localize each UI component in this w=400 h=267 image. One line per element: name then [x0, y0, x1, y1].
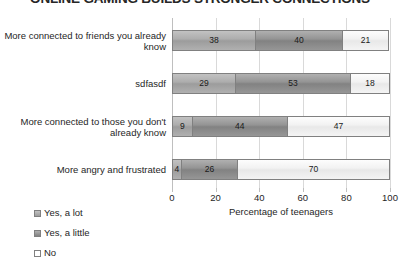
stacked-bar[interactable]: 94447 [172, 116, 390, 137]
chart-legend: Yes, a lotYes, a littleNo [34, 203, 90, 263]
bar-value-label: 4 [174, 165, 179, 174]
bar-segment[interactable]: 70 [237, 159, 390, 180]
legend-swatch-icon [34, 250, 41, 257]
legend-label: Yes, a little [44, 228, 90, 238]
bar-value-label: 47 [334, 122, 343, 131]
legend-swatch-icon [34, 210, 41, 217]
bar-row: 384021 [172, 19, 390, 62]
chart-title: ONLINE GAMING BUILDS STRONGER CONNECTION… [0, 0, 400, 6]
stacked-bar[interactable]: 295318 [172, 73, 390, 94]
x-axis-tick-labels: 020406080100 [172, 192, 390, 206]
legend-item[interactable]: Yes, a little [34, 223, 90, 243]
category-label: sdfasdf [4, 78, 172, 90]
bar-value-label: 44 [235, 122, 244, 131]
bar-row: 94447 [172, 105, 390, 148]
bar-segment[interactable]: 38 [172, 30, 256, 51]
bar-row: 42670 [172, 148, 390, 191]
bar-value-label: 26 [205, 165, 214, 174]
bar-value-label: 29 [199, 79, 208, 88]
x-tick-label: 100 [382, 192, 398, 203]
x-tick-label: 0 [169, 192, 174, 203]
x-tick-label: 20 [210, 192, 221, 203]
bar-row: 295318 [172, 62, 390, 105]
stacked-bar[interactable]: 42670 [172, 159, 390, 180]
legend-item[interactable]: Yes, a lot [34, 203, 90, 223]
category-label: More connected to friends you already kn… [4, 29, 172, 52]
bar-value-label: 38 [209, 36, 218, 45]
bar-segment[interactable]: 47 [287, 116, 390, 137]
gridline [390, 18, 391, 190]
bar-segment[interactable]: 9 [172, 116, 193, 137]
legend-label: No [44, 248, 56, 258]
x-tick-label: 60 [298, 192, 309, 203]
bar-segment[interactable]: 18 [350, 73, 390, 94]
category-label: More angry and frustrated [4, 164, 172, 176]
bar-value-label: 53 [288, 79, 297, 88]
category-label: More connected to those you don't alread… [4, 115, 172, 138]
plot-area: 3840212953189444742670 [172, 18, 390, 190]
bar-segment[interactable]: 29 [172, 73, 236, 94]
bar-segment[interactable]: 53 [235, 73, 351, 94]
bar-value-label: 9 [180, 122, 185, 131]
stacked-bar[interactable]: 384021 [172, 30, 390, 51]
chart-container: ONLINE GAMING BUILDS STRONGER CONNECTION… [0, 0, 400, 267]
bar-value-label: 18 [365, 79, 374, 88]
bar-segment[interactable]: 44 [192, 116, 288, 137]
legend-swatch-icon [34, 230, 41, 237]
bar-value-label: 21 [361, 36, 370, 45]
x-tick-label: 40 [254, 192, 265, 203]
bar-value-label: 40 [294, 36, 303, 45]
bar-segment[interactable]: 26 [181, 159, 238, 180]
bar-value-label: 70 [309, 165, 318, 174]
legend-label: Yes, a lot [44, 208, 83, 218]
x-tick-label: 80 [341, 192, 352, 203]
bar-segment[interactable]: 21 [342, 30, 389, 51]
legend-item[interactable]: No [34, 243, 90, 263]
x-axis-title: Percentage of teenagers [172, 206, 390, 217]
bar-segment[interactable]: 40 [255, 30, 343, 51]
